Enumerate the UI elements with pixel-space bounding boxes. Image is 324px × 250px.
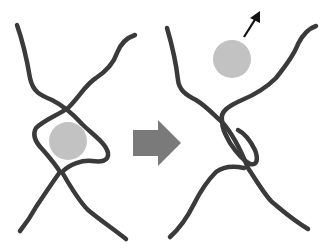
- released-sphere: [213, 40, 251, 78]
- panel-before: [17, 25, 135, 239]
- panel-after: [167, 11, 316, 237]
- diagram-canvas: [0, 0, 324, 250]
- trapped-sphere: [49, 122, 87, 160]
- release-arrow-icon: [244, 11, 260, 37]
- transition-arrow-icon: [133, 120, 181, 166]
